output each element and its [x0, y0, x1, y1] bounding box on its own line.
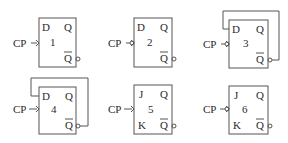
ff6-number: 6	[242, 103, 248, 115]
flip-flop-1: D Q Q 1 CP	[13, 18, 80, 67]
ff2-cp-label: CP	[108, 37, 121, 49]
ff1-qbar-label: Q	[64, 52, 72, 64]
ff3-qbar-label: Q	[256, 53, 264, 65]
ff5-cp-label: CP	[108, 103, 121, 115]
ff4-number: 4	[51, 103, 57, 115]
ff5-j-label: J	[139, 88, 144, 100]
ff6-qbar-label: Q	[256, 119, 264, 131]
ff3-cp-label: CP	[203, 38, 216, 50]
ff2-q-label: Q	[160, 21, 168, 33]
ff5-qbar-bubble-icon	[172, 124, 176, 128]
ff4-qbar-label: Q	[65, 119, 73, 131]
ff6-j-label: J	[234, 89, 239, 101]
ff6-qbar-bubble-icon	[268, 124, 272, 128]
ff1-number: 1	[50, 36, 56, 48]
ff3-feedback-wire	[223, 11, 279, 60]
ff5-number: 5	[148, 103, 154, 115]
ff5-q-label: Q	[160, 88, 168, 100]
ff1-q-label: Q	[64, 21, 72, 33]
ff1-cp-label: CP	[13, 37, 26, 49]
ff3-d-label: D	[232, 23, 240, 35]
flip-flop-3: D Q Q 3 CP	[203, 11, 279, 68]
ff4-d-label: D	[42, 90, 50, 102]
ff1-d-label: D	[42, 21, 50, 33]
ff6-k-label: K	[233, 119, 241, 131]
flip-flop-2: D Q Q 2 CP	[108, 18, 176, 67]
flip-flop-6: J Q K Q 6 CP	[203, 86, 272, 134]
ff2-number: 2	[147, 36, 153, 48]
flip-flop-diagram: D Q Q 1 CP D Q Q 2 CP D Q Q 3 CP	[0, 0, 288, 143]
ff1-qbar-bubble-icon	[76, 57, 80, 61]
ff3-qbar-bubble-icon	[268, 58, 272, 62]
ff6-cp-label: CP	[203, 103, 216, 115]
ff4-cp-label: CP	[13, 103, 26, 115]
ff3-q-label: Q	[256, 23, 264, 35]
ff6-q-label: Q	[256, 89, 264, 101]
ff5-k-label: K	[138, 119, 146, 131]
ff4-feedback-wire	[31, 78, 88, 126]
ff3-number: 3	[243, 37, 249, 49]
ff4-qbar-bubble-icon	[76, 124, 80, 128]
flip-flop-5: J Q K Q 5 CP	[108, 85, 176, 134]
ff4-q-label: Q	[65, 90, 73, 102]
ff2-qbar-label: Q	[160, 52, 168, 64]
flip-flop-4: D Q Q 4 CP	[13, 78, 88, 134]
ff5-qbar-label: Q	[160, 119, 168, 131]
ff2-qbar-bubble-icon	[172, 57, 176, 61]
ff2-d-label: D	[137, 21, 145, 33]
